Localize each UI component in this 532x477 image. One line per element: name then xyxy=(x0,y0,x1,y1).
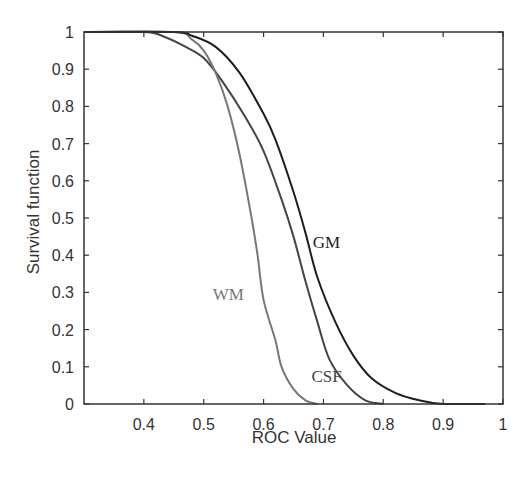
curve-wm xyxy=(84,31,317,404)
curve-labels: CSFWMGM xyxy=(213,233,342,386)
curve-label-csf: CSF xyxy=(311,367,341,386)
survival-function-chart: CSFWMGM 0.40.50.60.70.80.9100.10.20.30.4… xyxy=(0,0,532,477)
x-axis-label: ROC Value xyxy=(252,428,337,447)
curve-csf xyxy=(84,32,383,404)
y-tick-label: 0.4 xyxy=(52,247,74,264)
y-tick-label: 0.6 xyxy=(52,173,74,190)
y-tick-label: 1 xyxy=(65,24,74,41)
x-tick-label: 0.5 xyxy=(193,416,215,433)
x-tick-label: 0.9 xyxy=(432,416,454,433)
axes: 0.40.50.60.70.80.9100.10.20.30.40.50.60.… xyxy=(52,24,508,433)
curve-label-wm: WM xyxy=(213,285,244,304)
x-tick-label: 0.4 xyxy=(133,416,155,433)
plot-frame xyxy=(84,32,503,404)
y-tick-label: 0.1 xyxy=(52,359,74,376)
curve-gm xyxy=(84,32,485,404)
y-axis-label: Survival function xyxy=(24,150,43,275)
curve-label-gm: GM xyxy=(313,233,340,252)
y-tick-label: 0.3 xyxy=(52,284,74,301)
y-tick-label: 0.2 xyxy=(52,322,74,339)
y-tick-label: 0.7 xyxy=(52,136,74,153)
curves xyxy=(84,31,485,404)
y-tick-label: 0.8 xyxy=(52,98,74,115)
y-tick-label: 0.9 xyxy=(52,61,74,78)
y-tick-label: 0 xyxy=(65,396,74,413)
x-tick-label: 1 xyxy=(499,416,508,433)
y-tick-label: 0.5 xyxy=(52,210,74,227)
x-tick-label: 0.8 xyxy=(372,416,394,433)
